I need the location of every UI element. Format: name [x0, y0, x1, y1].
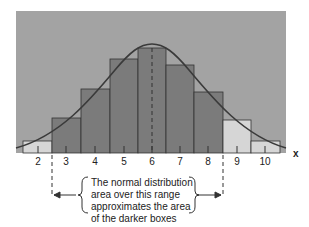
bar-8	[194, 92, 223, 153]
svg-text:4: 4	[92, 156, 98, 167]
svg-text:of the darker boxes: of the darker boxes	[91, 213, 177, 224]
svg-text:5: 5	[121, 156, 127, 167]
bar-7	[166, 65, 194, 153]
svg-text:7: 7	[177, 156, 183, 167]
bar-5	[110, 59, 138, 153]
svg-text:2: 2	[35, 156, 41, 167]
x-axis-label: x	[293, 148, 299, 159]
svg-text:approximates the area: approximates the area	[91, 201, 191, 212]
annotation-text: The normal distribution area over this r…	[91, 177, 193, 224]
svg-text:8: 8	[205, 156, 211, 167]
svg-text:area over this range: area over this range	[91, 189, 180, 200]
svg-text:6: 6	[149, 156, 155, 167]
svg-text:9: 9	[234, 156, 240, 167]
svg-text:The normal distribution: The normal distribution	[91, 177, 193, 188]
svg-text:3: 3	[63, 156, 69, 167]
x-tick-labels: 2 3 4 5 6 7 8 9 10	[35, 156, 271, 167]
svg-text:10: 10	[259, 156, 271, 167]
bar-4	[81, 89, 110, 153]
normal-approximation-chart: 2 3 4 5 6 7 8 9 10 x The normal distribu…	[0, 0, 309, 227]
